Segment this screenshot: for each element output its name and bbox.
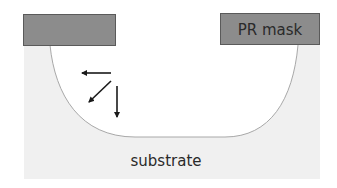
pr-mask-label: PR mask xyxy=(238,21,303,39)
substrate-label: substrate xyxy=(130,152,201,170)
pr-mask-left xyxy=(24,15,116,46)
isotropic-etch-diagram: PR mask substrate xyxy=(0,0,337,188)
